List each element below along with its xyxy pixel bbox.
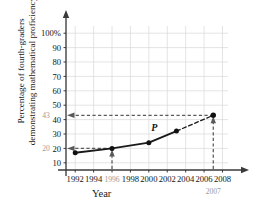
chart-plot-area: 102030405060708090100%199219941996199820… xyxy=(0,0,255,209)
data-point xyxy=(73,150,78,155)
x-tick-label: 1998 xyxy=(122,174,139,184)
tick-labels: 102030405060708090100%199219941996199820… xyxy=(41,28,231,184)
y-tick-label: 90 xyxy=(52,43,61,53)
guide-lines xyxy=(67,113,216,169)
y-tick-label: 20 xyxy=(52,144,61,154)
gridlines xyxy=(66,26,228,170)
chart-figure: Percentage of fourth-graders demonstrati… xyxy=(0,0,255,209)
guide-2007-to-43-arrowhead-left xyxy=(67,113,75,118)
x-tick-label: 2006 xyxy=(195,174,213,184)
x-tick-label: 2008 xyxy=(214,174,231,184)
series-P-extrapolated xyxy=(176,115,213,131)
x-tick-label: 2000 xyxy=(140,174,157,184)
y-annotation-20: 20 xyxy=(42,144,50,153)
x-axis-arrowhead xyxy=(241,167,249,173)
y-tick-label: 80 xyxy=(52,57,61,67)
y-tick-label: 100% xyxy=(41,28,61,38)
x-annotation-2007: 2007 xyxy=(206,187,221,196)
curve-label-P: P xyxy=(151,122,158,133)
guide-1996-to-20-arrowhead-left xyxy=(67,146,75,151)
y-annotation-43: 43 xyxy=(42,111,50,120)
series-P xyxy=(75,131,176,153)
y-tick-label: 70 xyxy=(52,72,61,82)
x-tick-label-highlighted: 1996 xyxy=(104,175,119,184)
x-tick-label: 2002 xyxy=(159,174,176,184)
x-tick-label: 2004 xyxy=(177,174,195,184)
data-point xyxy=(146,140,151,145)
data-point xyxy=(174,129,179,134)
data-point-extrapolated xyxy=(211,113,216,118)
y-tick-label: 60 xyxy=(52,86,61,96)
x-tick-label: 1992 xyxy=(67,174,84,184)
y-tick-label: 50 xyxy=(52,100,61,110)
data-point xyxy=(110,146,115,151)
y-axis-arrowhead xyxy=(63,10,69,18)
y-tick-label: 10 xyxy=(52,158,61,168)
y-tick-label: 40 xyxy=(52,115,61,125)
y-tick-label: 30 xyxy=(52,129,61,139)
x-tick-label: 1994 xyxy=(85,174,103,184)
